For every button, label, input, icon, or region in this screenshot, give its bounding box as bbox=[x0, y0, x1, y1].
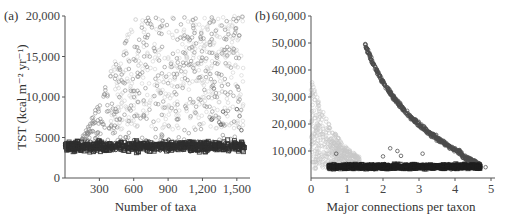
data-points bbox=[309, 42, 487, 171]
x-tick-label: 3 bbox=[416, 182, 422, 196]
x-tick-label: 2 bbox=[380, 182, 386, 196]
figure: 0500010,00015,00020,0003006009001,2001,5… bbox=[0, 0, 506, 220]
y-tick-label: 20,000 bbox=[26, 9, 60, 23]
y-tick-label: 40,000 bbox=[272, 63, 306, 77]
panel-label: (b) bbox=[255, 8, 270, 23]
y-tick-label: 10,000 bbox=[26, 90, 60, 104]
y-tick-label: 0 bbox=[54, 171, 60, 185]
y-tick-label: 10,000 bbox=[272, 144, 306, 158]
y-tick-label: 15,000 bbox=[26, 50, 60, 64]
panel-a: 0500010,00015,00020,0003006009001,2001,5… bbox=[4, 8, 251, 214]
x-tick-label: 5 bbox=[488, 182, 494, 196]
x-axis-label: Number of taxa bbox=[115, 199, 197, 214]
data-points bbox=[63, 14, 246, 154]
y-tick-label: 30,000 bbox=[272, 90, 306, 104]
x-tick-label: 1,500 bbox=[223, 182, 251, 196]
y-tick-label: 60,000 bbox=[272, 9, 306, 23]
y-tick-label: 50,000 bbox=[272, 36, 306, 50]
x-tick-label: 1,200 bbox=[188, 182, 216, 196]
x-tick-label: 300 bbox=[90, 182, 109, 196]
x-tick-label: 4 bbox=[452, 182, 459, 196]
x-tick-label: 1 bbox=[344, 182, 350, 196]
y-tick-label: 5000 bbox=[35, 131, 60, 145]
x-tick-label: 900 bbox=[159, 182, 178, 196]
x-tick-label: 0 bbox=[308, 182, 314, 196]
y-tick-label: 20,000 bbox=[272, 117, 306, 131]
x-tick-label: 600 bbox=[124, 182, 143, 196]
y-axis-label: TST (kcal m⁻² yr⁻¹) bbox=[14, 44, 29, 149]
x-axis-label: Major connections per taxon bbox=[326, 199, 476, 214]
panel-b: 10,00020,00030,00040,00050,00060,0000123… bbox=[255, 8, 495, 214]
panel-label: (a) bbox=[4, 8, 18, 23]
